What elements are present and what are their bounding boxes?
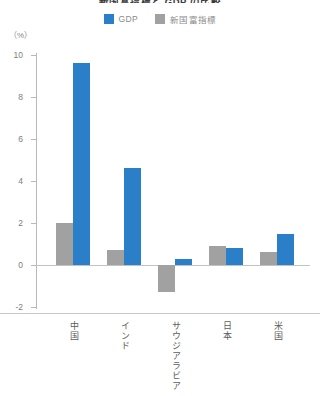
y-tick-label-6: 6: [18, 134, 23, 144]
category-label-インド: インド: [120, 321, 129, 351]
y-axis-unit-label: （%）: [9, 29, 32, 40]
bar-米国-GDP: [277, 234, 294, 266]
category-label-中国: 中国: [69, 321, 78, 341]
legend-item-gdp: GDP: [104, 14, 138, 24]
bar-中国-GDP: [73, 63, 90, 265]
legend-swatch-gdp: [104, 14, 114, 24]
y-tick-label-0: 0: [18, 260, 23, 270]
chart-title: 新国富指標と GDP の比較: [0, 0, 320, 3]
bars-layer: [36, 53, 320, 309]
chart-legend: GDP 新国富指標: [0, 13, 320, 25]
legend-label-iwi: 新国富指標: [170, 13, 217, 25]
legend-item-iwi: 新国富指標: [155, 13, 217, 25]
category-label-日本: 日本: [222, 321, 231, 341]
bar-日本-GDP: [226, 248, 243, 265]
bar-米国-新国富指標: [260, 252, 277, 265]
bar-インド-新国富指標: [107, 250, 124, 265]
bar-サウジアラビア-GDP: [175, 259, 192, 265]
y-tick-label-4: 4: [18, 176, 23, 186]
bar-インド-GDP: [124, 168, 141, 265]
y-tick-label-8: 8: [18, 92, 23, 102]
x-axis-line: [0, 313, 320, 314]
category-label-米国: 米国: [273, 321, 282, 341]
y-tick-label-10: 10: [14, 50, 23, 60]
legend-label-gdp: GDP: [119, 14, 138, 24]
y-tick-label--2: -2: [15, 302, 23, 312]
category-label-サウジアラビア: サウジアラビア: [171, 321, 180, 391]
plot-area: -20246810: [36, 53, 320, 309]
bar-中国-新国富指標: [56, 223, 73, 265]
y-tick-label-2: 2: [18, 218, 23, 228]
chart-page: 新国富指標と GDP の比較 GDP 新国富指標 （%） -20246810 中…: [0, 0, 320, 396]
bar-日本-新国富指標: [209, 246, 226, 265]
legend-swatch-iwi: [155, 14, 165, 24]
bar-サウジアラビア-新国富指標: [158, 265, 175, 292]
